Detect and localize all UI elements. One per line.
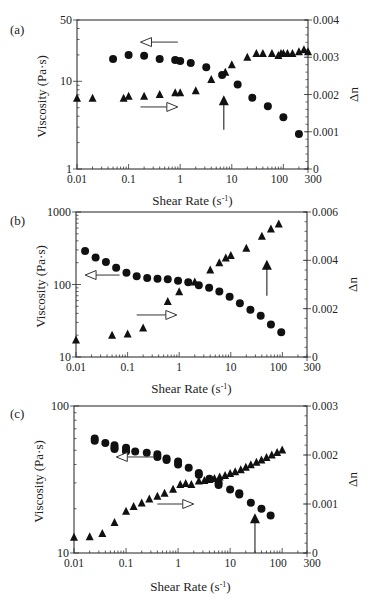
triangle-marker [278,446,286,454]
right-axis-ticks: 00.0010.0020.0030.004 [304,14,339,175]
plot-frame [77,20,308,169]
left-axis-ticks: 11050 [60,13,82,176]
y2-tick-label: 0 [312,547,318,559]
plot-frame [74,406,307,553]
x-tick-label: 100 [270,557,288,569]
x-tick-label: 1 [177,173,183,185]
circle-marker [112,264,120,272]
y2-tick-label: 0.001 [312,498,338,510]
x-axis-title: Shear Rate (s-1) [152,193,232,208]
x-axis-ticks: 0.010.1110100300 [64,548,321,569]
triangle-marker [161,489,169,497]
triangle-marker [215,258,223,266]
left-axis-title: Viscosity (Pa·s) [33,245,48,328]
y-tick-label: 50 [60,13,72,27]
triangle-marker [139,324,147,332]
x-tick-label: 100 [270,361,288,373]
y2-tick-label: 0.003 [313,51,339,63]
y-tick-label: 1000 [47,205,71,219]
triangle-marker [228,60,236,68]
right-axis-ticks: 00.0020.0040.006 [303,206,338,363]
circle-marker [205,284,213,292]
series-birefringence [73,45,312,101]
triangle-marker [268,49,276,57]
circle-marker [215,481,223,489]
x-tick-label: 10 [225,361,237,373]
circle-marker [202,63,210,71]
y-tick-label: 1 [66,162,72,176]
circle-marker [164,275,172,283]
triangle-marker [89,94,97,102]
x-axis-title: Shear Rate (s-1) [151,381,231,396]
circle-marker [154,275,162,283]
triangle-marker [73,94,81,102]
x-tick-label: 0.1 [119,557,134,569]
x-tick-label: 10 [224,557,236,569]
triangle-marker [227,251,235,259]
triangle-marker [110,518,118,526]
right-axis-title: Δn [346,87,361,102]
circle-marker [277,328,285,336]
y2-tick-label: 0.002 [312,303,338,315]
circle-marker [185,464,193,472]
circle-marker [247,499,255,507]
panel-label: (a) [10,22,24,37]
y-tick-label: 100 [51,399,69,413]
circle-marker [131,448,139,456]
circle-marker [110,445,118,453]
circle-marker [279,113,287,121]
triangle-marker [156,90,164,98]
triangle-marker [206,266,214,274]
circle-marker [133,272,141,280]
y2-tick-label: 0.003 [312,400,338,412]
triangle-marker [122,507,130,515]
x-tick-label: 10 [226,173,238,185]
triangle-marker [175,287,183,295]
circle-marker [92,254,100,262]
y2-tick-label: 0.002 [313,89,339,101]
circle-marker [215,288,223,296]
circle-marker [187,59,195,67]
panel-c: 0.010.11101003001010000.0010.0020.003Vis… [10,399,360,594]
circle-marker [267,321,275,329]
figure-canvas: 0.010.11101003001105000.0010.0020.0030.0… [0,0,375,608]
series-viscosity [81,247,285,336]
circle-marker [176,57,184,65]
triangle-marker [86,532,94,540]
triangle-marker [252,49,260,57]
triangle-marker [130,502,138,510]
triangle-marker [275,220,283,228]
triangle-marker [169,485,177,493]
right-axis-ticks: 00.0010.0020.003 [303,400,338,559]
triangle-marker [145,495,153,503]
x-axis-ticks: 0.010.1110100300 [66,352,321,373]
triangle-marker [267,224,275,232]
triangle-marker [125,92,133,100]
circle-marker [257,312,265,320]
panel-label: (c) [10,406,24,421]
arrow-right-hollow-icon [137,310,177,319]
circle-marker [174,277,182,285]
left-axis-title: Viscosity (Pa·s) [34,55,49,138]
x-tick-label: 0.1 [120,361,135,373]
circle-marker [226,486,234,494]
triangle-marker [138,499,146,507]
y-tick-label: 10 [57,546,69,560]
circle-marker [234,80,242,88]
arrow-up-solid-icon [250,513,260,553]
triangle-marker [124,330,132,338]
y-tick-label: 100 [53,278,71,292]
triangle-marker [187,480,195,488]
circle-marker [153,453,161,461]
triangle-marker [259,49,267,57]
arrow-left-hollow-icon [85,271,120,280]
y2-tick-label: 0.006 [312,206,338,218]
circle-marker [156,55,164,63]
y-tick-label: 10 [59,350,71,364]
circle-marker [174,460,182,468]
series-viscosity [109,51,303,138]
circle-marker [143,274,151,282]
right-axis-title: Δn [345,472,360,487]
circle-marker [101,439,109,447]
arrow-right-hollow-icon [140,102,177,111]
